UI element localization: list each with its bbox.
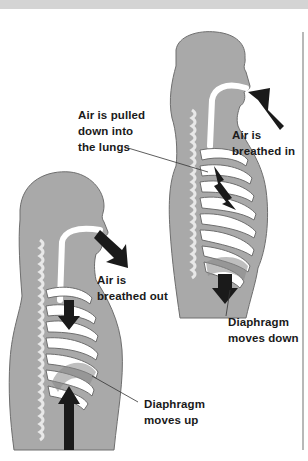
figure-inhale <box>169 32 284 318</box>
label-line: breathed out <box>97 288 168 304</box>
label-breathed-in: Air is breathed in <box>232 127 295 159</box>
figure-exhale <box>9 172 128 450</box>
label-line: down into <box>78 123 145 139</box>
breathing-diagram <box>0 0 308 461</box>
label-line: Air is <box>97 272 168 288</box>
label-line: Air is pulled <box>78 107 145 123</box>
label-diaphragm-up: Diaphragm moves up <box>144 396 205 428</box>
label-line: the lungs <box>78 139 145 155</box>
label-line: moves up <box>144 412 205 428</box>
label-line: Air is <box>232 127 295 143</box>
label-line: breathed in <box>232 143 295 159</box>
label-air-pulled: Air is pulled down into the lungs <box>78 107 145 155</box>
label-diaphragm-down: Diaphragm moves down <box>228 314 299 346</box>
label-line: moves down <box>228 330 299 346</box>
label-breathed-out: Air is breathed out <box>97 272 168 304</box>
label-line: Diaphragm <box>144 396 205 412</box>
label-line: Diaphragm <box>228 314 299 330</box>
